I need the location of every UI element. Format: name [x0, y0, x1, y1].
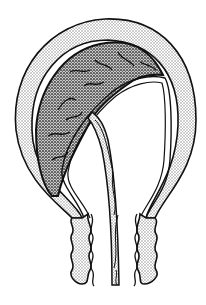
cervix-left — [71, 214, 91, 284]
uterus-diagram — [0, 0, 206, 305]
cervix-right — [137, 214, 158, 284]
cervix-right-inner-line — [134, 214, 137, 286]
diagram-svg — [0, 0, 206, 305]
cervix-left-inner-line — [91, 214, 94, 286]
